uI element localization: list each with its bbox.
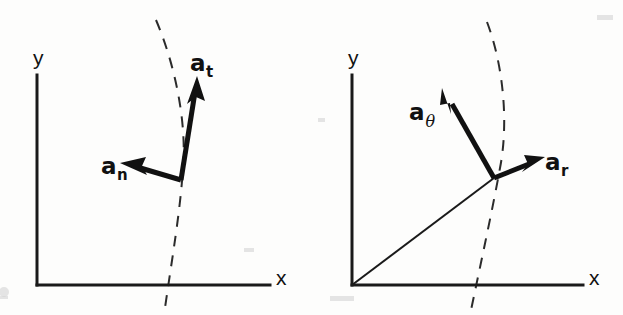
vector-label-a-n-sub: n — [117, 166, 128, 184]
vector-label-a-n: an — [101, 155, 128, 183]
panel-normal-tangential — [37, 20, 270, 315]
y-axis-label-right: y — [348, 47, 359, 68]
trajectory-curve-left — [156, 20, 184, 315]
x-axis-label-right: x — [589, 267, 600, 288]
vector-label-a-r-base: a — [545, 149, 561, 175]
vector-a-theta — [440, 88, 494, 178]
vector-a-n — [120, 157, 181, 180]
vector-label-a-t-sub: t — [206, 63, 214, 81]
vector-label-a-theta-sub: θ — [425, 112, 436, 131]
vector-a-r — [494, 155, 545, 178]
vector-label-a-n-base: a — [101, 153, 117, 179]
vector-a-t — [181, 76, 205, 180]
x-axis-label-left: x — [276, 267, 287, 288]
vector-label-a-t: at — [190, 52, 213, 80]
vector-label-a-theta: aθ — [409, 101, 435, 130]
scan-artifacts — [0, 15, 613, 301]
vector-label-a-r: ar — [545, 151, 568, 179]
vector-label-a-r-sub: r — [561, 162, 569, 180]
y-axis-label-left: y — [33, 47, 44, 68]
figure-vector-layer — [0, 0, 623, 315]
vector-label-a-t-base: a — [190, 50, 206, 76]
vector-label-a-theta-base: a — [409, 99, 425, 125]
acceleration-components-figure: y x at an y x aθ ar — [0, 0, 623, 315]
radius-line — [352, 178, 494, 285]
